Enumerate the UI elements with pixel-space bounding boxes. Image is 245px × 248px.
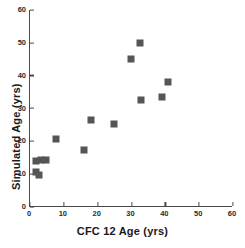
- data-point-marker: [42, 157, 49, 164]
- y-tick-label: 0: [22, 203, 26, 211]
- data-point-marker: [87, 116, 94, 123]
- x-tick-label: 50: [194, 210, 202, 218]
- x-tick-mark: [165, 202, 166, 206]
- data-point-marker: [136, 40, 143, 47]
- y-tick-mark: [30, 108, 34, 109]
- data-point-marker: [158, 94, 165, 101]
- y-tick-mark: [30, 75, 34, 76]
- y-tick-label: 50: [18, 39, 26, 47]
- data-point-marker: [36, 171, 43, 178]
- data-point-marker: [53, 136, 60, 143]
- data-point-marker: [81, 147, 88, 154]
- scatter-plot-figure: CFC 12 Age (yrs) Simulated Age (yrs) 010…: [0, 0, 245, 248]
- x-tick-mark: [199, 202, 200, 206]
- y-tick-mark: [30, 42, 34, 43]
- y-tick-mark: [30, 206, 34, 207]
- x-tick-mark: [232, 202, 233, 206]
- x-tick-label: 40: [160, 210, 168, 218]
- x-tick-label: 10: [59, 210, 67, 218]
- data-point-marker: [111, 120, 118, 127]
- y-tick-label: 20: [18, 138, 26, 146]
- y-tick-label: 40: [18, 72, 26, 80]
- y-tick-mark: [30, 9, 34, 10]
- y-tick-label: 10: [18, 170, 26, 178]
- x-tick-mark: [29, 202, 30, 206]
- plot-area: [29, 10, 232, 207]
- x-tick-label: 30: [126, 210, 134, 218]
- x-tick-mark: [131, 202, 132, 206]
- data-point-marker: [165, 79, 172, 86]
- data-point-marker: [127, 55, 134, 62]
- x-tick-label: 60: [228, 210, 236, 218]
- x-tick-mark: [63, 202, 64, 206]
- x-tick-mark: [97, 202, 98, 206]
- y-tick-mark: [30, 141, 34, 142]
- x-axis-label: CFC 12 Age (yrs): [0, 225, 245, 237]
- y-tick-label: 30: [18, 105, 26, 113]
- data-point-marker: [137, 97, 144, 104]
- x-tick-label: 20: [92, 210, 100, 218]
- x-tick-label: 0: [27, 210, 31, 218]
- y-tick-label: 60: [18, 6, 26, 14]
